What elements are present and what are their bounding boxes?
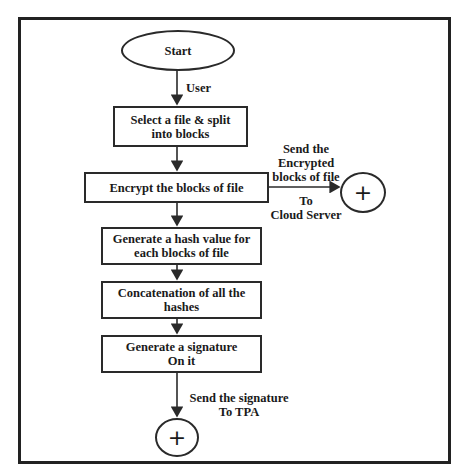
step-generate-hash: Generate a hash value for each blocks of… — [101, 227, 262, 265]
plus-icon: + — [168, 431, 186, 445]
start-label: Start — [164, 44, 191, 58]
edge-label-to-cloud-server: To Cloud Server — [270, 194, 342, 222]
step-concat-line-1: Concatenation of all the — [118, 286, 245, 300]
step-select-file: Select a file & split into blocks — [113, 106, 248, 147]
step-hash-line-2: each blocks of file — [113, 246, 250, 260]
step-select-line-1: Select a file & split — [131, 113, 231, 127]
edge-label-send-signature: Send the signature To TPA — [184, 391, 294, 419]
step-concatenate-hashes: Concatenation of all the hashes — [101, 281, 262, 319]
start-terminal: Start — [121, 30, 235, 71]
tpa-connector: + — [155, 418, 199, 457]
step-signature-line-1: Generate a signature — [126, 340, 238, 354]
step-concat-line-2: hashes — [118, 300, 245, 314]
cloud-server-connector: + — [340, 172, 386, 213]
step-generate-signature: Generate a signature On it — [101, 335, 262, 373]
step-encrypt-blocks: Encrypt the blocks of file — [84, 172, 269, 203]
step-select-line-2: into blocks — [131, 127, 231, 141]
step-signature-line-2: On it — [126, 354, 238, 368]
edge-label-send-encrypted: Send the Encrypted blocks of file — [270, 142, 342, 184]
step-encrypt-label: Encrypt the blocks of file — [109, 181, 243, 195]
step-hash-line-1: Generate a hash value for — [113, 232, 250, 246]
edge-label-user: User — [186, 81, 211, 95]
plus-icon: + — [354, 186, 372, 200]
